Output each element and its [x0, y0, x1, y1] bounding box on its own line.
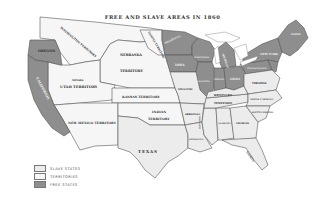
label-indiana: INDIANA	[214, 78, 225, 80]
label-georgia: GEORGIA	[236, 122, 249, 125]
legend-label: SLAVE STATES	[50, 167, 80, 171]
legend-item-territories: TERRITORIES	[34, 173, 80, 180]
label-arkansas: ARKANSAS	[184, 113, 200, 116]
region-new-england	[278, 20, 308, 56]
label-pennsylvania: PENNSYLVANIA	[247, 67, 267, 70]
legend-label: TERRITORIES	[50, 175, 78, 179]
label-tennessee: TENNESSEE	[214, 102, 232, 105]
label-kansas: KANSAS TERRITORY	[122, 95, 161, 99]
region-florida	[222, 138, 268, 170]
legend-swatch-slave	[34, 165, 46, 172]
label-indian-territory: TERRITORY	[148, 117, 170, 121]
region-texas	[118, 116, 188, 178]
label-illinois: ILLINOIS	[198, 80, 210, 83]
label-ohio: OHIO	[230, 77, 240, 81]
label-kentucky: KENTUCKY	[214, 93, 233, 97]
label-nebraska: NEBRASKA	[120, 53, 142, 57]
label-texas: TEXAS	[138, 149, 158, 154]
label-oregon: OREGON	[38, 49, 55, 53]
label-alabama: ALABAMA	[217, 122, 231, 125]
label-virginia: VIRGINIA	[251, 82, 267, 85]
label-nevada: NEVADA	[72, 79, 84, 82]
label-nebraska-territory: TERRITORY	[120, 69, 144, 73]
label-new-mexico: NEW MEXICO TERRITORY	[68, 121, 117, 125]
label-wisconsin: WISCONSIN	[193, 56, 209, 59]
legend-swatch-free	[34, 181, 46, 188]
label-north-carolina: NORTH CAROLINA	[250, 98, 274, 101]
map-legend: SLAVE STATES TERRITORIES FREE STATES	[34, 165, 80, 189]
legend-item-free-states: FREE STATES	[34, 181, 80, 188]
label-new-york: NEW YORK	[260, 52, 279, 56]
legend-item-slave-states: SLAVE STATES	[34, 165, 80, 172]
label-maine: MAINE	[291, 33, 301, 36]
label-missouri: MISSOURI	[178, 88, 193, 91]
label-louisiana: LOUISIANA	[189, 138, 204, 141]
legend-swatch-territories	[34, 173, 46, 180]
label-indian: INDIAN	[152, 110, 166, 114]
legend-label: FREE STATES	[50, 183, 78, 187]
label-utah: UTAH TERRITORY	[60, 85, 98, 89]
label-iowa: IOWA	[175, 63, 185, 67]
